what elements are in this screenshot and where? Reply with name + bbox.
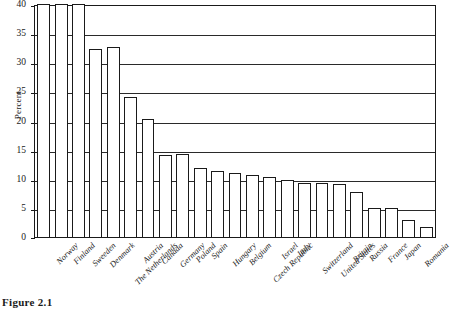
- x-axis-tick-labels: NorwayFinlandSweedenDenmarkThe Netherlan…: [34, 239, 436, 301]
- bar: [55, 4, 68, 237]
- bar-slot: [313, 6, 330, 237]
- bar: [316, 183, 329, 237]
- y-tick-label: 10: [0, 175, 26, 185]
- bar-slot: [52, 6, 69, 237]
- x-tick-label: Romania: [423, 241, 451, 269]
- y-tick-label: 20: [0, 117, 26, 127]
- y-axis-tick-labels: 0510152025303540: [0, 0, 30, 244]
- bar: [368, 208, 381, 237]
- bar: [350, 192, 363, 237]
- y-tick-label: 15: [0, 146, 26, 156]
- bar: [194, 168, 207, 237]
- bar-slot: [35, 6, 52, 237]
- bar-slot: [174, 6, 191, 237]
- bar: [281, 180, 294, 237]
- bar: [229, 173, 242, 237]
- bar: [176, 154, 189, 237]
- figure-caption: Figure 2.1: [2, 296, 52, 310]
- plot-area: [34, 5, 436, 238]
- bar-slot: [192, 6, 209, 237]
- y-tick-label: 5: [0, 204, 26, 214]
- bar: [211, 171, 224, 237]
- bar-slot: [296, 6, 313, 237]
- bar: [298, 183, 311, 237]
- y-tick-label: 25: [0, 88, 26, 98]
- bar: [420, 227, 433, 237]
- bar-slot: [226, 6, 243, 237]
- y-tick-label: 30: [0, 59, 26, 69]
- bar-slot: [365, 6, 382, 237]
- bar-slot: [418, 6, 435, 237]
- bar: [263, 177, 276, 237]
- bar: [107, 47, 120, 237]
- bar-slot: [87, 6, 104, 237]
- bar: [159, 155, 172, 237]
- bar-slot: [70, 6, 87, 237]
- y-tick-label: 0: [0, 233, 26, 243]
- bar-slot: [105, 6, 122, 237]
- bar: [37, 4, 50, 237]
- bar-slot: [122, 6, 139, 237]
- bar-slot: [209, 6, 226, 237]
- bar: [385, 208, 398, 237]
- bar-series: [35, 6, 435, 237]
- bar: [142, 119, 155, 237]
- bar: [246, 175, 259, 237]
- bar-slot: [261, 6, 278, 237]
- bar-slot: [383, 6, 400, 237]
- bar: [333, 184, 346, 237]
- bar-slot: [278, 6, 295, 237]
- bar: [89, 49, 102, 237]
- bar-slot: [348, 6, 365, 237]
- bar-slot: [139, 6, 156, 237]
- bar: [72, 4, 85, 237]
- bar: [124, 97, 137, 237]
- y-tick-label: 35: [0, 29, 26, 39]
- bar-slot: [157, 6, 174, 237]
- bar-slot: [244, 6, 261, 237]
- bar: [402, 220, 415, 237]
- bar-slot: [400, 6, 417, 237]
- y-tick-label: 40: [0, 0, 26, 10]
- bar-slot: [331, 6, 348, 237]
